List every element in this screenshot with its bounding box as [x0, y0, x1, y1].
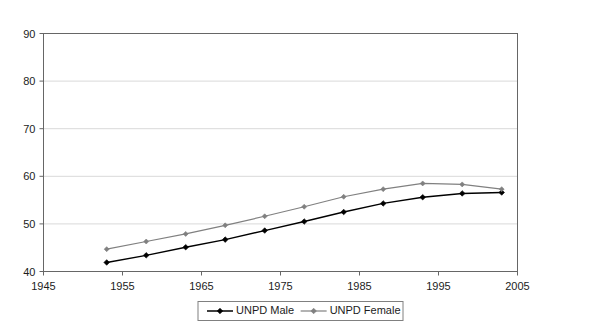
data-point-marker [341, 209, 347, 215]
data-series [104, 190, 505, 266]
plot-area-border [44, 34, 518, 272]
data-point-marker [302, 204, 307, 209]
legend-label: UNPD Female [330, 304, 401, 316]
data-point-marker [459, 191, 465, 197]
grid-lines [44, 81, 518, 224]
data-point-marker [183, 244, 189, 250]
series-line [107, 183, 502, 249]
y-tick-label: 50 [23, 218, 35, 230]
data-point-marker [460, 182, 465, 187]
x-tick-label: 1945 [31, 280, 55, 292]
series-group [104, 181, 505, 265]
data-point-marker [183, 231, 188, 236]
y-tick-label: 70 [23, 123, 35, 135]
line-chart: 405060708090 194519551965197519851995200… [0, 0, 601, 331]
data-point-marker [104, 247, 109, 252]
y-tick-label: 90 [23, 28, 35, 40]
data-point-marker [499, 187, 504, 192]
x-tick-label: 1955 [110, 280, 134, 292]
data-point-marker [222, 237, 228, 243]
data-point-marker [144, 239, 149, 244]
data-point-marker [341, 194, 346, 199]
y-tick-label: 60 [23, 170, 35, 182]
data-series [104, 181, 504, 252]
chart-container: 405060708090 194519551965197519851995200… [0, 0, 601, 331]
y-tick-label: 40 [23, 266, 35, 278]
chart-legend: UNPD MaleUNPD Female [198, 302, 403, 321]
data-point-marker [381, 187, 386, 192]
data-point-marker [143, 253, 149, 259]
data-point-marker [420, 194, 426, 200]
data-point-marker [262, 228, 268, 234]
x-tick-label: 1975 [268, 280, 292, 292]
y-axis-ticks: 405060708090 [23, 28, 43, 278]
x-axis-ticks: 1945195519651975198519952005 [31, 272, 529, 292]
x-tick-label: 2005 [505, 280, 529, 292]
x-tick-label: 1995 [426, 280, 450, 292]
series-line [107, 192, 502, 262]
x-tick-label: 1985 [347, 280, 371, 292]
data-point-marker [420, 181, 425, 186]
data-point-marker [262, 214, 267, 219]
legend-label: UNPD Male [236, 304, 294, 316]
data-point-marker [104, 260, 110, 266]
x-tick-label: 1965 [189, 280, 213, 292]
data-point-marker [380, 201, 386, 207]
y-tick-label: 80 [23, 75, 35, 87]
